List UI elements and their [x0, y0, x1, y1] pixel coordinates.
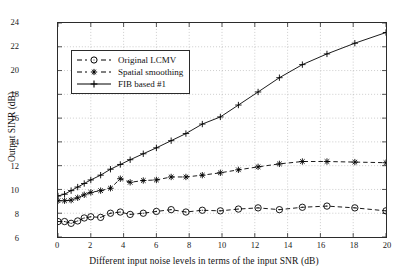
x-tick-label: 4 — [111, 241, 135, 250]
x-tick-label: 18 — [342, 241, 366, 250]
x-tick-label: 16 — [309, 241, 333, 250]
y-tick-label: 24 — [0, 18, 19, 27]
y-tick-label: 8 — [0, 210, 19, 219]
series-1 — [58, 158, 386, 204]
y-tick-label: 22 — [0, 42, 19, 51]
legend-label: Spatial smoothing — [116, 66, 183, 78]
legend-symbol-plus-solid — [76, 78, 116, 90]
legend-label: FIB based #1 — [116, 78, 166, 90]
x-tick-label: 10 — [210, 241, 234, 250]
x-tick-label: 0 — [45, 241, 69, 250]
series-0 — [58, 203, 386, 227]
x-tick-label: 2 — [78, 241, 102, 250]
x-tick-label: 14 — [276, 241, 300, 250]
legend-item-original-lcmv: Original LCMV — [76, 54, 183, 66]
x-tick-label: 12 — [243, 241, 267, 250]
figure: 681012141618202224 02468101214161820 Dif… — [0, 0, 408, 279]
x-tick-label: 20 — [375, 241, 399, 250]
legend-item-fib-based-1: FIB based #1 — [76, 78, 183, 90]
legend-symbol-asterisk-dashed — [76, 66, 116, 78]
x-axis-label: Different input noise levels in terms of… — [0, 256, 408, 266]
legend-label: Original LCMV — [116, 54, 176, 66]
legend-symbol-circle-dashed — [76, 54, 116, 66]
y-tick-label: 6 — [0, 234, 19, 243]
y-axis-label: Output SINR (dB) — [7, 52, 17, 202]
legend-item-spatial-smoothing: Spatial smoothing — [76, 66, 183, 78]
chart-legend: Original LCMV Spatial smoothing F — [71, 50, 190, 94]
x-tick-label: 6 — [144, 241, 168, 250]
x-tick-label: 8 — [177, 241, 201, 250]
